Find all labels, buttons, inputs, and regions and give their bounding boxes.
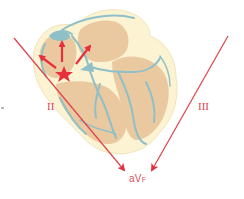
- lead-avf-main: aV: [129, 173, 142, 184]
- lead-avf-label: aVF: [129, 174, 146, 184]
- sinus-node-region: [50, 31, 70, 41]
- lead-ii-label: II: [47, 101, 54, 112]
- stray-mark: [1, 107, 4, 109]
- lead-avf-subscript: F: [142, 176, 147, 183]
- lead-iii-label: III: [198, 101, 209, 112]
